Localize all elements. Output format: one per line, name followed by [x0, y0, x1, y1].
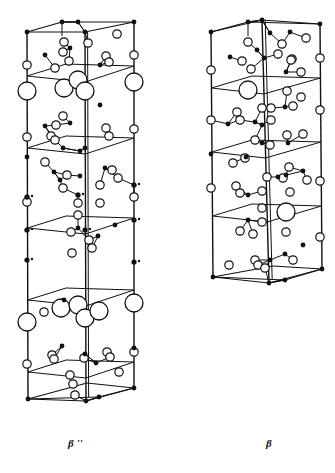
filled-atom [26, 397, 31, 402]
filled-atom [132, 346, 137, 351]
ion-dot-small [31, 228, 33, 230]
open-atom [286, 188, 294, 196]
open-atom [316, 233, 324, 241]
large-atom [125, 294, 143, 312]
open-atom [23, 360, 31, 368]
open-atom [244, 38, 252, 46]
ion-dot-small [138, 260, 140, 262]
open-atom [207, 184, 215, 192]
bond-line [87, 383, 134, 388]
filled-atom [209, 30, 214, 35]
bond-line [285, 269, 322, 280]
open-atom [88, 244, 96, 252]
open-atom [108, 166, 116, 174]
ion-dot-small [31, 258, 33, 260]
open-atom [297, 68, 305, 76]
open-atom [66, 371, 74, 379]
filled-atom [62, 298, 67, 303]
open-atom [258, 204, 266, 212]
open-atom [289, 102, 297, 110]
open-atom [68, 249, 76, 257]
open-atom [96, 181, 104, 189]
bond-line [28, 360, 66, 372]
open-atom [233, 108, 241, 116]
open-atom [207, 66, 215, 74]
filled-atom [283, 252, 288, 257]
open-atom [84, 39, 92, 47]
open-atom [302, 34, 310, 42]
open-atom [247, 65, 255, 73]
filled-atom [284, 70, 289, 75]
open-atom [285, 163, 293, 171]
filled-atom [68, 46, 73, 51]
open-atom [266, 141, 274, 149]
open-atom [289, 256, 297, 264]
bond-line [27, 148, 85, 154]
filled-atom [97, 395, 102, 400]
open-atom [316, 106, 324, 114]
filled-atom [260, 18, 265, 23]
open-atom [249, 230, 257, 238]
filled-atom [84, 399, 89, 404]
open-atom [236, 189, 244, 197]
bond-line [86, 218, 134, 234]
filled-atom [260, 123, 265, 128]
open-atom [96, 199, 104, 207]
bond-line [66, 288, 134, 290]
ion-dot [131, 217, 136, 222]
bond-line [63, 148, 80, 151]
large-atom [125, 73, 143, 91]
ion-dot-small [82, 193, 84, 195]
filled-atom [253, 120, 258, 125]
filled-atom [268, 31, 273, 36]
large-atom [18, 313, 36, 331]
ion-dot [131, 182, 136, 187]
filled-atom [96, 234, 101, 239]
filled-atom [211, 275, 216, 280]
open-atom [69, 380, 77, 388]
filled-atom [228, 55, 233, 60]
filled-atom [68, 121, 73, 126]
filled-atom [320, 267, 325, 272]
open-atom [59, 112, 67, 120]
open-atom [59, 184, 67, 192]
open-atom [105, 132, 113, 140]
open-atom [267, 104, 275, 112]
bond-line [28, 216, 66, 228]
open-atom [316, 54, 324, 62]
open-atom [50, 355, 58, 363]
open-atom [130, 125, 138, 133]
large-atom [76, 82, 94, 100]
bond-line [213, 204, 252, 216]
open-atom [278, 40, 286, 48]
ion-dot [24, 194, 29, 199]
bond-line [28, 372, 86, 378]
large-atom [239, 81, 257, 99]
open-atom [23, 133, 31, 141]
open-atom [74, 199, 82, 207]
open-atom [41, 158, 49, 166]
open-atom [52, 121, 60, 129]
filled-atom [267, 281, 272, 286]
open-atom [114, 174, 122, 182]
filled-atom [226, 122, 231, 127]
open-atom [287, 56, 295, 64]
filled-atom [246, 20, 251, 25]
filled-atom [83, 352, 88, 357]
open-atom [102, 124, 110, 132]
filled-atom [58, 178, 63, 183]
open-atom [60, 38, 68, 46]
filled-atom [98, 63, 103, 68]
filled-atom [268, 258, 273, 263]
filled-atom [246, 218, 251, 223]
ion-dot [131, 259, 136, 264]
open-atom [263, 173, 271, 181]
open-atom [274, 50, 282, 58]
ion-dot-small [138, 218, 140, 220]
filled-atom [255, 48, 260, 53]
filled-atom [103, 166, 108, 171]
large-atom [90, 302, 108, 320]
open-atom [225, 261, 233, 269]
open-atom [229, 159, 237, 167]
open-atom [130, 193, 138, 201]
